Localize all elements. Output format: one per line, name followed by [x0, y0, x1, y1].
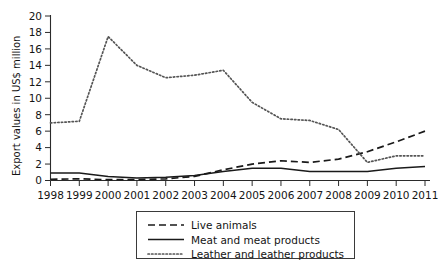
y-axis-title-label: Export values in US$ million	[11, 36, 22, 176]
y-tick-label: 20	[29, 10, 42, 22]
legend-item-label: Leather and leather products	[191, 248, 344, 260]
series-lines	[51, 37, 426, 180]
x-tick-label: 2003	[181, 189, 208, 201]
chart-legend: Live animalsMeat and meat productsLeathe…	[137, 212, 355, 261]
x-tick-label: 2007	[296, 189, 323, 201]
x-tick-label: 2000	[95, 189, 122, 201]
x-tick-label: 2011	[412, 189, 438, 201]
x-tick-label: 1999	[66, 189, 93, 201]
series-line	[51, 131, 426, 180]
chart-canvas: Export values in US$ million 02468101214…	[0, 0, 438, 269]
legend-item-label: Live animals	[191, 219, 257, 231]
x-tick-label: 2008	[325, 189, 352, 201]
series-line	[51, 167, 426, 179]
y-tick-label: 4	[35, 141, 42, 153]
y-axis-ticks: 02468101214161820	[29, 10, 51, 187]
y-tick-label: 6	[35, 125, 42, 137]
x-tick-label: 2009	[354, 189, 381, 201]
y-axis-title: Export values in US$ million	[11, 36, 22, 176]
series-line	[51, 37, 426, 163]
y-tick-label: 14	[29, 59, 43, 71]
x-tick-label: 2002	[152, 189, 179, 201]
x-tick-label: 2004	[210, 189, 237, 201]
y-tick-label: 10	[29, 92, 42, 104]
x-axis-ticks: 1998199920002001200220032004200520062007…	[37, 181, 438, 202]
y-tick-label: 18	[29, 26, 42, 38]
x-tick-label: 2010	[383, 189, 410, 201]
legend-item-label: Meat and meat products	[191, 234, 320, 246]
y-tick-label: 16	[29, 43, 43, 55]
x-tick-label: 1998	[37, 189, 64, 201]
x-tick-label: 2001	[124, 189, 151, 201]
y-tick-label: 2	[35, 158, 42, 170]
x-tick-label: 2006	[268, 189, 295, 201]
line-chart: Export values in US$ million 02468101214…	[0, 0, 438, 269]
y-tick-label: 0	[35, 174, 42, 186]
x-tick-label: 2005	[239, 189, 266, 201]
y-tick-label: 12	[29, 76, 42, 88]
y-tick-label: 8	[35, 109, 42, 121]
